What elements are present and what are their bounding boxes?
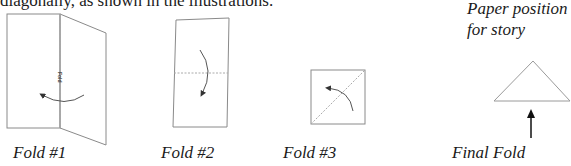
fold-3-arrow-icon xyxy=(328,88,353,111)
fold-1-arrow-icon xyxy=(42,95,84,102)
final-fold-diagram xyxy=(494,61,570,138)
fold-1-diagram: Fold xyxy=(7,14,106,145)
fold-1-caption: Fold #1 xyxy=(13,143,66,163)
up-arrow-icon xyxy=(527,109,535,118)
fold-3-diagram xyxy=(311,70,365,124)
fold-2-caption: Fold #2 xyxy=(161,143,214,163)
fold-2-arrow-icon xyxy=(200,50,208,94)
final-fold-caption: Final Fold xyxy=(452,143,525,163)
fold-illustrations: Fold xyxy=(0,0,571,166)
fold-line-label: Fold xyxy=(57,72,63,83)
fold-2-diagram xyxy=(173,18,229,127)
fold-3-caption: Fold #3 xyxy=(283,143,336,163)
